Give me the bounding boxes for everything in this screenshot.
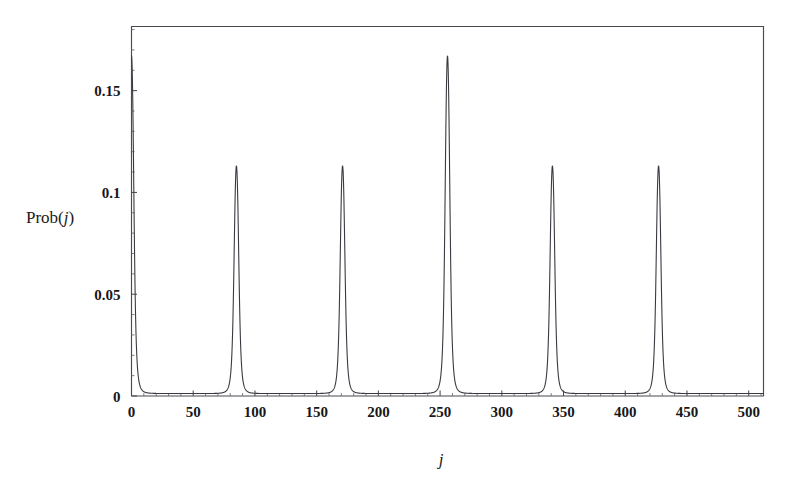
y-axis-tick-label: 0.1 <box>102 185 121 201</box>
x-axis-tick-label: 50 <box>186 404 201 420</box>
x-label-variable: j <box>437 450 444 469</box>
x-axis-tick-label: 300 <box>491 404 514 420</box>
x-axis-tick-label: 200 <box>367 404 390 420</box>
x-axis-tick-label: 150 <box>305 404 328 420</box>
x-axis-tick-label: 100 <box>244 404 267 420</box>
x-axis-tick-label: 450 <box>676 404 699 420</box>
y-axis-tick-label: 0 <box>113 389 121 405</box>
x-axis-tick-label: 0 <box>128 404 136 420</box>
y-axis-label: Prob(j) <box>26 208 74 227</box>
x-axis-tick-label: 400 <box>614 404 637 420</box>
probability-distribution-figure: 050100150200250300350400450500 00.050.10… <box>0 0 792 479</box>
x-axis-tick-label: 250 <box>429 404 452 420</box>
x-axis-tick-label: 350 <box>552 404 575 420</box>
y-axis-tick-label: 0.15 <box>94 83 120 99</box>
x-axis-tick-label: 500 <box>737 404 760 420</box>
plot-canvas: 050100150200250300350400450500 00.050.10… <box>0 0 792 479</box>
y-axis-tick-label: 0.05 <box>94 287 120 303</box>
x-axis-label: j <box>437 450 444 469</box>
figure-background <box>0 0 792 479</box>
y-label-variable: j <box>62 208 69 227</box>
